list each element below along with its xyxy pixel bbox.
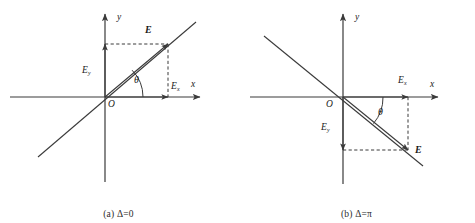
e-vector [343, 97, 408, 150]
ey-base: E [321, 122, 327, 132]
panel-a: y x O θ E Ey Ex (a) Δ=0 [0, 0, 237, 223]
x-axis-label: x [430, 80, 434, 90]
origin-label: O [326, 100, 333, 110]
ex-component-label: Ex [171, 82, 179, 92]
origin-label: O [108, 100, 115, 110]
angle-label: θ [378, 107, 383, 117]
y-axis-label: y [117, 13, 121, 23]
ex-base: E [171, 81, 177, 91]
polarization-figure: y x O θ E Ey Ex (a) Δ=0 [0, 0, 475, 223]
ey-subscript: y [88, 70, 91, 76]
angle-label: θ [134, 75, 139, 85]
e-vector [105, 44, 168, 97]
ey-base: E [82, 65, 88, 75]
x-axis-label: x [191, 80, 195, 90]
y-axis-label: y [355, 13, 359, 23]
ex-subscript: x [404, 80, 407, 86]
ex-component-label: Ex [398, 76, 406, 86]
ex-base: E [398, 75, 404, 85]
ey-component-label: Ey [321, 123, 329, 133]
panel-b-caption: (b) Δ=π [238, 209, 475, 219]
panel-b-drawing [238, 0, 475, 200]
ex-subscript: x [177, 86, 180, 92]
panel-a-caption: (a) Δ=0 [0, 209, 237, 219]
ey-component-label: Ey [82, 66, 90, 76]
panel-a-drawing [0, 0, 237, 200]
panel-b: y x O θ E Ey Ex (b) Δ=π [238, 0, 475, 223]
e-vector-label: E [145, 25, 152, 35]
e-vector-label: E [415, 145, 422, 155]
ey-subscript: y [327, 127, 330, 133]
